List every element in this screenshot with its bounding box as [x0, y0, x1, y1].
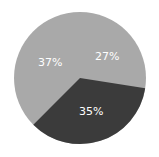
slice-label-27: 27% — [95, 50, 119, 63]
slice-label-37: 37% — [38, 56, 62, 69]
pie-chart: 37% 27% 35% — [0, 0, 159, 157]
slice-label-35: 35% — [79, 105, 103, 118]
